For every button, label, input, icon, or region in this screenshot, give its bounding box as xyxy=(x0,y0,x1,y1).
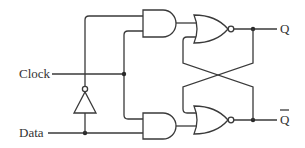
nor-bottom-bubble xyxy=(228,117,234,123)
clock-branch-wire xyxy=(124,31,143,119)
feedback-wire-q-to-bottom-nor xyxy=(183,29,253,113)
clock-junction-dot xyxy=(122,72,126,76)
q-bar-label: Q xyxy=(280,112,290,127)
nor-top-bubble xyxy=(228,26,234,32)
and-gate-top xyxy=(143,10,176,37)
d-latch-diagram: Clock Data Q Q xyxy=(0,0,305,148)
inverter-output-wire xyxy=(85,16,143,86)
nor-gate-top xyxy=(194,15,228,43)
inverter-gate xyxy=(74,92,96,113)
q-label: Q xyxy=(280,21,290,36)
feedback-wire-qbar-to-top-nor xyxy=(183,37,253,120)
nor-gate-bottom xyxy=(194,106,228,134)
clock-label: Clock xyxy=(19,66,51,81)
and-gate-bottom xyxy=(143,113,176,139)
inverter-bubble xyxy=(82,86,87,91)
data-label: Data xyxy=(19,125,44,140)
